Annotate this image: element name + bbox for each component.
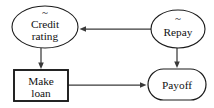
credit-rating-tilde-marker: ~ [42, 6, 48, 18]
node-credit-rating[interactable]: ~ Credit rating [12, 6, 78, 48]
node-repay[interactable]: ~ Repay [151, 10, 205, 48]
edge-make-loan-to-payoff [68, 82, 147, 88]
diagram-canvas: ~ Credit rating ~ Repay Make loan Payoff [0, 0, 214, 108]
edge-credit-rating-to-make-loan [38, 48, 44, 69]
payoff-label: Payoff [162, 79, 192, 91]
node-make-loan[interactable]: Make loan [14, 70, 68, 101]
credit-rating-label-line1: Credit [31, 18, 60, 30]
influence-diagram: ~ Credit rating ~ Repay Make loan Payoff [0, 0, 214, 108]
node-payoff[interactable]: Payoff [148, 69, 206, 100]
repay-label: Repay [164, 26, 193, 38]
credit-rating-label-line2: rating [32, 30, 59, 42]
make-loan-label-line1: Make [28, 75, 54, 87]
edge-repay-to-credit-rating [80, 26, 152, 32]
edge-repay-to-payoff [174, 48, 180, 68]
make-loan-label-line2: loan [31, 87, 51, 99]
repay-tilde-marker: ~ [175, 12, 181, 24]
